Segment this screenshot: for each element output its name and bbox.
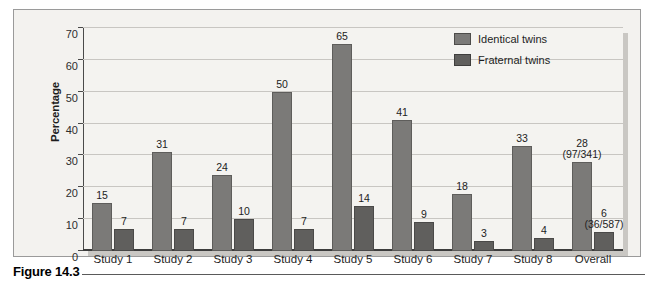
bar-group: 317 (143, 28, 203, 251)
bar[interactable] (354, 206, 374, 251)
bar-group: 419 (383, 28, 443, 251)
bar[interactable] (152, 152, 172, 251)
bar[interactable] (234, 219, 254, 251)
bar[interactable] (534, 238, 554, 251)
bar-value: 7 (121, 215, 127, 227)
bar-value: 15 (96, 189, 108, 201)
bar-value-label: 65 (316, 31, 368, 42)
bar-value: 4 (541, 224, 547, 236)
bar-value-label: 31 (136, 139, 188, 150)
bar-value: 18 (456, 180, 468, 192)
figure-caption-rule (82, 274, 645, 275)
y-axis-tick-labels: 010203040506070 (50, 28, 78, 251)
bar-value: 10 (238, 205, 250, 217)
bar-value-label: 28(97/341) (556, 138, 608, 160)
bar-value: 50 (276, 78, 288, 90)
bar-value: 24 (216, 161, 228, 173)
bar-value: 3 (481, 227, 487, 239)
fraternal-twins-swatch (454, 54, 471, 66)
bar-value-annotation: (36/587) (578, 219, 630, 230)
bar-value-label: 50 (256, 79, 308, 90)
bar[interactable] (114, 229, 134, 251)
identical-twins-swatch (454, 33, 471, 45)
bar[interactable] (452, 194, 472, 251)
bar-value-label: 41 (376, 107, 428, 118)
bar-group: 157 (83, 28, 143, 251)
bar-value-label: 6(36/587) (578, 208, 630, 230)
bar-value: 33 (516, 132, 528, 144)
bar-value: 7 (301, 215, 307, 227)
bar-value: 7 (181, 215, 187, 227)
bar[interactable] (594, 232, 614, 251)
bar[interactable] (92, 203, 112, 251)
bar-value: 41 (396, 106, 408, 118)
figure-caption-label: Figure 14.3 (13, 264, 79, 279)
legend-item[interactable]: Identical twins (454, 29, 584, 48)
bar[interactable] (474, 241, 494, 251)
bar[interactable] (414, 222, 434, 251)
bar-group: 507 (263, 28, 323, 251)
bar-value-label: 33 (496, 133, 548, 144)
bar-value: 14 (358, 192, 370, 204)
bar-value: 31 (156, 138, 168, 150)
bar[interactable] (572, 162, 592, 251)
figure-frame: Percentage 010203040506070 1573172410507… (13, 9, 641, 257)
bar-value-label: 18 (436, 181, 488, 192)
bar[interactable] (294, 229, 314, 251)
chart-legend: Identical twinsFraternal twins (454, 29, 584, 71)
figure-caption: Figure 14.3 (13, 264, 645, 279)
legend-item[interactable]: Fraternal twins (454, 50, 584, 69)
bar-value: 65 (336, 30, 348, 42)
legend-item-label: Fraternal twins (478, 54, 550, 66)
bar[interactable] (332, 44, 352, 251)
bar-value-label: 24 (196, 162, 248, 173)
bar-value: 28 (576, 137, 588, 149)
bar-value-label: 15 (76, 190, 128, 201)
legend-item-label: Identical twins (478, 33, 547, 45)
bar[interactable] (272, 92, 292, 251)
bar-group: 6514 (323, 28, 383, 251)
bar-group: 2410 (203, 28, 263, 251)
bar-value-annotation: (97/341) (556, 149, 608, 160)
bar[interactable] (392, 120, 412, 251)
bar-value: 9 (421, 208, 427, 220)
bar[interactable] (174, 229, 194, 251)
